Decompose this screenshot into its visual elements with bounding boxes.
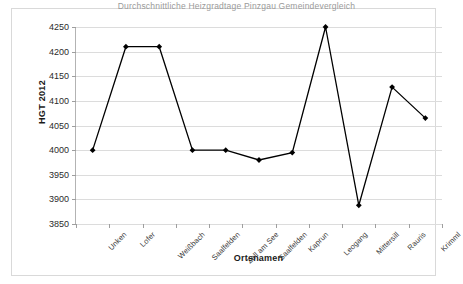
y-tick-label: 4000 bbox=[49, 145, 69, 155]
x-tick-label: Krimml bbox=[439, 230, 462, 253]
y-tick-label: 4150 bbox=[49, 71, 69, 81]
data-point-marker bbox=[90, 147, 96, 153]
data-point-marker bbox=[190, 147, 196, 153]
x-tick-mark bbox=[76, 224, 77, 228]
gridline bbox=[76, 224, 442, 225]
x-tick-mark bbox=[409, 224, 410, 228]
x-tick-label: Unken bbox=[106, 230, 128, 252]
series-layer bbox=[76, 27, 442, 224]
y-tick-label: 4050 bbox=[49, 121, 69, 131]
y-tick-label: 4100 bbox=[49, 96, 69, 106]
x-tick-label: Rauris bbox=[406, 230, 428, 252]
x-tick-mark bbox=[176, 224, 177, 228]
x-tick-mark bbox=[309, 224, 310, 228]
data-point-marker bbox=[256, 157, 262, 163]
y-tick-label: 3950 bbox=[49, 170, 69, 180]
y-axis-title: HGT 2012 bbox=[37, 62, 47, 142]
x-tick-mark bbox=[276, 224, 277, 228]
x-tick-mark bbox=[375, 224, 376, 228]
x-tick-label: Lofer bbox=[138, 230, 157, 249]
series-line bbox=[93, 27, 426, 205]
x-tick-mark bbox=[242, 224, 243, 228]
chart-frame: Durchschnittliche Heizgradtage Pinzgau G… bbox=[11, 8, 436, 276]
x-tick-mark bbox=[209, 224, 210, 228]
x-tick-mark bbox=[342, 224, 343, 228]
y-tick-label: 4200 bbox=[49, 47, 69, 57]
x-tick-mark bbox=[109, 224, 110, 228]
data-point-marker bbox=[123, 44, 129, 50]
data-point-marker bbox=[289, 150, 295, 156]
x-axis-title: Ortsnamen bbox=[75, 253, 442, 263]
y-tick-label: 3900 bbox=[49, 194, 69, 204]
data-point-marker bbox=[323, 24, 329, 30]
data-point-marker bbox=[156, 44, 162, 50]
x-tick-label: Kaprun bbox=[307, 230, 331, 254]
data-point-marker bbox=[223, 147, 229, 153]
data-point-marker bbox=[356, 202, 362, 208]
y-tick-label: 3850 bbox=[49, 219, 69, 229]
plot-area: 425042004150410040504000395039003850Unke… bbox=[75, 27, 442, 225]
y-tick-label: 4250 bbox=[49, 22, 69, 32]
x-tick-mark bbox=[143, 224, 144, 228]
chart-clipped-title: Durchschnittliche Heizgradtage Pinzgau G… bbox=[34, 1, 439, 12]
x-tick-mark bbox=[442, 224, 443, 228]
